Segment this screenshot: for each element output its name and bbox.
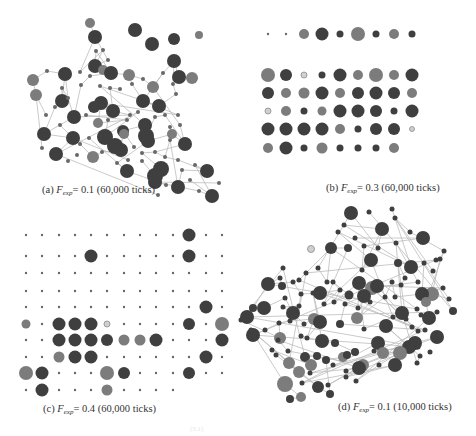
- agent-node: [85, 351, 98, 364]
- network-edge: [165, 157, 178, 160]
- agent-node: [205, 272, 207, 274]
- agent-node: [139, 372, 141, 374]
- agent-node: [115, 161, 119, 165]
- agent-node: [37, 127, 51, 141]
- agent-node: [415, 307, 420, 312]
- agent-node: [351, 27, 365, 41]
- agent-node: [106, 58, 110, 62]
- caption-subscript: exp: [359, 406, 369, 414]
- agent-node: [53, 334, 66, 347]
- agent-node: [168, 138, 172, 142]
- agent-node: [337, 145, 344, 152]
- agent-node: [171, 82, 175, 86]
- agent-node: [167, 129, 177, 139]
- bleed-through-text: (3.1): [190, 425, 203, 433]
- agent-node: [297, 278, 302, 283]
- agent-node: [313, 352, 321, 360]
- agent-node: [277, 376, 293, 392]
- agent-node: [25, 339, 27, 341]
- agent-node: [221, 234, 223, 236]
- agent-node: [93, 118, 103, 128]
- caption-text: = 0.3 (60,000 ticks): [357, 182, 440, 193]
- agent-node: [301, 145, 308, 152]
- agent-node: [205, 323, 207, 325]
- agent-node: [389, 143, 399, 153]
- network-edge: [299, 248, 331, 280]
- agent-node: [288, 319, 293, 324]
- agent-node: [172, 306, 174, 308]
- agent-node: [41, 234, 43, 236]
- agent-node: [249, 328, 254, 333]
- agent-node: [153, 115, 157, 119]
- agent-node: [408, 230, 413, 235]
- agent-node: [85, 250, 98, 263]
- agent-node: [299, 29, 309, 39]
- agent-node: [221, 356, 223, 358]
- agent-node: [128, 23, 142, 37]
- agent-node: [155, 356, 157, 358]
- agent-node: [58, 272, 60, 274]
- agent-node: [163, 113, 167, 117]
- agent-node: [311, 291, 316, 296]
- agent-node: [355, 145, 362, 152]
- agent-node: [55, 94, 69, 108]
- agent-node: [332, 300, 337, 305]
- agent-node: [352, 87, 364, 99]
- agent-node: [106, 356, 108, 358]
- agent-node: [304, 271, 309, 276]
- agent-node: [372, 349, 377, 354]
- agent-node: [422, 261, 427, 266]
- agent-node: [188, 356, 190, 358]
- agent-node: [176, 113, 180, 117]
- agent-node: [394, 259, 402, 267]
- agent-node: [362, 327, 367, 332]
- panel-a-network: [27, 18, 221, 203]
- agent-node: [25, 255, 27, 257]
- agent-node: [172, 356, 174, 358]
- agent-node: [104, 66, 118, 80]
- agent-node: [87, 151, 99, 163]
- agent-node: [85, 18, 95, 28]
- agent-node: [416, 329, 421, 334]
- agent-node: [126, 158, 130, 162]
- agent-node: [174, 92, 178, 96]
- agent-node: [342, 223, 347, 228]
- agent-node: [172, 339, 174, 341]
- agent-node: [168, 125, 172, 129]
- agent-node: [261, 277, 275, 291]
- agent-node: [58, 290, 60, 292]
- agent-node: [305, 359, 317, 371]
- agent-node: [41, 290, 43, 292]
- agent-node: [69, 334, 82, 347]
- agent-node: [136, 110, 140, 114]
- agent-node: [88, 30, 102, 44]
- agent-node: [205, 189, 219, 203]
- agent-node: [172, 323, 174, 325]
- agent-node: [344, 206, 358, 220]
- agent-node: [106, 290, 108, 292]
- agent-node: [325, 242, 337, 254]
- agent-node: [141, 77, 145, 81]
- agent-node: [370, 87, 383, 100]
- agent-node: [79, 83, 83, 87]
- agent-node: [53, 105, 57, 109]
- agent-node: [308, 371, 313, 376]
- agent-node: [305, 336, 310, 341]
- agent-node: [431, 269, 436, 274]
- agent-node: [54, 352, 65, 363]
- agent-node: [25, 290, 27, 292]
- agent-node: [106, 234, 108, 236]
- agent-node: [74, 389, 76, 391]
- agent-node: [152, 99, 166, 113]
- agent-node: [389, 29, 399, 39]
- agent-node: [435, 310, 440, 315]
- agent-node: [319, 72, 326, 79]
- agent-node: [353, 70, 363, 80]
- agent-node: [262, 123, 275, 136]
- agent-node: [36, 367, 49, 380]
- agent-node: [60, 86, 64, 90]
- network-edge: [320, 293, 425, 330]
- agent-node: [155, 290, 157, 292]
- agent-node: [106, 306, 108, 308]
- agent-node: [123, 356, 125, 358]
